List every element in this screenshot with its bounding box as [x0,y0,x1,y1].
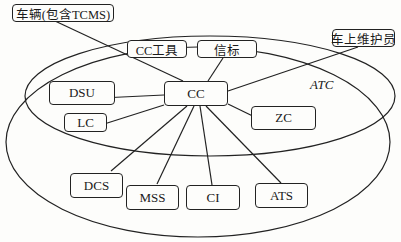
node-ats: ATS [255,183,308,208]
node-beacon: 信标 [197,40,257,58]
node-vehicle: 车辆(包含TCMS) [12,4,114,22]
atc-label: ATC [310,77,333,93]
node-cc-tool: CC工具 [127,40,187,58]
edge-cc-mss [157,106,194,184]
node-cc: CC [164,81,228,106]
node-dsu: DSU [49,81,115,105]
edge-cc-ci [200,106,212,185]
edge-cc-dcs [111,106,187,171]
edge-cc-beacon [208,58,223,81]
node-zc: ZC [251,106,316,130]
node-dcs: DCS [70,173,123,198]
node-lc: LC [64,113,107,132]
node-mss: MSS [126,185,179,210]
edge-cc-lc [101,105,164,125]
node-onboard-maintainer: 车上维护员 [332,29,395,47]
node-ci: CI [186,185,240,210]
